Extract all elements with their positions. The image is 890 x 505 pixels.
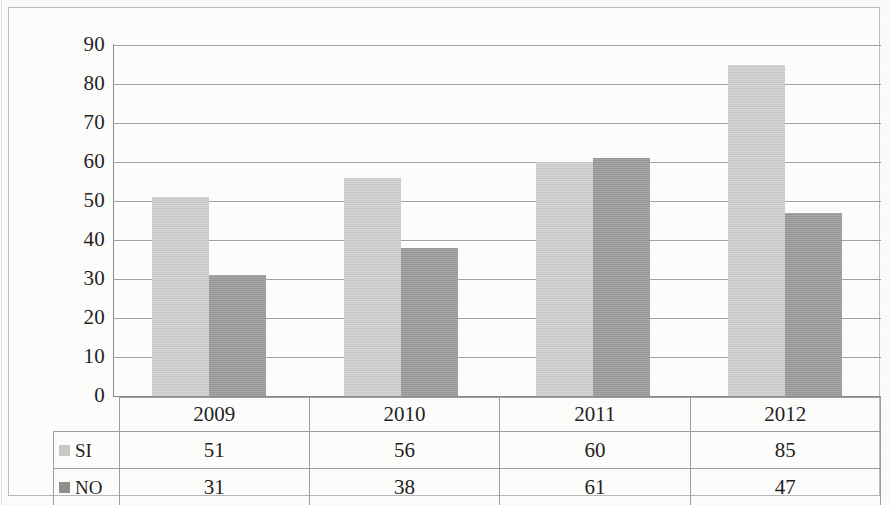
table-cell-value: 31 — [119, 469, 309, 505]
y-axis-tick-label: 10 — [19, 346, 105, 367]
table-cell-value: 38 — [309, 469, 499, 505]
y-axis-tick-label: 50 — [19, 190, 105, 211]
bar-no-2012 — [785, 213, 842, 396]
y-axis-tick-label: 30 — [19, 268, 105, 289]
table-cell-value: 47 — [690, 469, 880, 505]
y-axis: 9080706050403020100 — [9, 45, 105, 396]
y-axis-tick-label: 80 — [19, 73, 105, 94]
bar-si-2011 — [536, 162, 593, 396]
legend-swatch-si-icon — [59, 445, 70, 456]
page-edge — [1, 0, 2, 505]
bars-layer — [113, 45, 881, 396]
table-cell-value: 56 — [309, 432, 499, 469]
legend-cell-no: NO — [54, 469, 120, 505]
legend-label: SI — [75, 441, 92, 460]
bar-no-2011 — [593, 158, 650, 396]
data-table: 2009201020112012SI51566085NO31386147 — [53, 397, 881, 503]
bar-si-2012 — [728, 65, 785, 397]
chart-screenshot: 9080706050403020100 2009201020112012SI51… — [0, 0, 890, 505]
table-row-years: 2009201020112012 — [54, 398, 881, 432]
table-corner-cell — [54, 398, 120, 432]
table-cell-value: 60 — [500, 432, 690, 469]
y-axis-tick-label: 40 — [19, 229, 105, 250]
bar-no-2010 — [401, 248, 458, 396]
table-row: NO31386147 — [54, 469, 881, 505]
legend-label: NO — [75, 478, 102, 497]
y-axis-tick-label: 60 — [19, 151, 105, 172]
table-cell-value: 61 — [500, 469, 690, 505]
chart-frame: 9080706050403020100 2009201020112012SI51… — [8, 7, 880, 496]
y-axis-tick-label: 70 — [19, 112, 105, 133]
table-header-year: 2012 — [690, 398, 880, 432]
table-row: SI51566085 — [54, 432, 881, 469]
table-header-year: 2009 — [119, 398, 309, 432]
legend-swatch-no-icon — [59, 482, 70, 493]
bar-si-2009 — [152, 197, 209, 396]
bar-no-2009 — [209, 275, 266, 396]
bar-si-2010 — [344, 178, 401, 396]
series-table: 2009201020112012SI51566085NO31386147 — [53, 397, 881, 505]
y-axis-tick-label: 90 — [19, 34, 105, 55]
legend-cell-si: SI — [54, 432, 120, 469]
y-axis-tick-label: 20 — [19, 307, 105, 328]
table-cell-value: 85 — [690, 432, 880, 469]
table-header-year: 2011 — [500, 398, 690, 432]
table-cell-value: 51 — [119, 432, 309, 469]
table-header-year: 2010 — [309, 398, 499, 432]
